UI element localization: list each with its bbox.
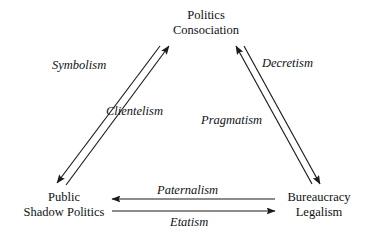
edge-label-pragmatism: Pragmatism [201,113,262,128]
node-bureaucracy-line1: Bureaucracy [268,190,370,205]
edge-label-paternalism: Paternalism [157,183,218,198]
node-public-line1: Public [2,190,126,205]
edge-label-clientelism: Clientelism [106,104,163,119]
relationship-diagram: Politics Consociation Public Shadow Poli… [0,0,370,242]
node-politics-line2: Consociation [146,23,266,38]
node-politics-line1: Politics [146,8,266,23]
node-politics-consociation: Politics Consociation [146,8,266,38]
node-bureaucracy-line2: Legalism [268,205,370,220]
node-public-line2: Shadow Politics [2,205,126,220]
edge-label-symbolism: Symbolism [52,58,106,73]
node-public-shadow-politics: Public Shadow Politics [2,190,126,220]
node-bureaucracy-legalism: Bureaucracy Legalism [268,190,370,220]
edge-label-decretism: Decretism [262,56,313,71]
edge-label-etatism: Etatism [170,215,208,230]
